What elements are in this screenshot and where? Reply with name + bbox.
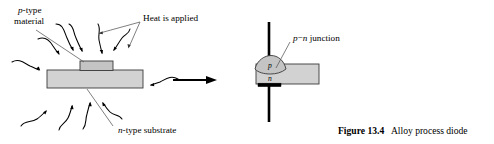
p-type-material-leader (36, 30, 84, 62)
figure-caption: Figure 13.4 Alloy process diode (338, 125, 468, 136)
left-diagram-group: p-type material Heat is applied n-type s… (12, 5, 199, 135)
heat-arrow-top-left-outer (38, 38, 59, 55)
n-type-substrate-leader (87, 89, 113, 126)
n-type-substrate-label: n-type substrate (118, 125, 176, 135)
caption-number: Figure 13.4 (338, 125, 384, 136)
n-type-substrate-block (47, 70, 143, 88)
heat-arrow-top-center-right (98, 24, 103, 54)
figure-13-4-alloy-process-diode: p-type material Heat is applied n-type s… (0, 0, 494, 144)
heat-leader-left (99, 22, 140, 34)
heat-arrow-bottom-left-outer (21, 110, 47, 126)
p-type-material-block (80, 61, 113, 71)
heat-arrow-bottom-center (83, 102, 92, 129)
caption-title: Alloy process diode (391, 125, 468, 136)
heat-arrow-top-left (56, 24, 74, 51)
heat-is-applied-label: Heat is applied (143, 13, 199, 23)
heat-arrow-top-right (113, 29, 130, 51)
heat-arrow-bottom-right (102, 102, 122, 119)
heat-leader-right (128, 22, 141, 48)
process-transition-arrow (173, 76, 217, 84)
bottom-ohmic-contact (258, 83, 281, 86)
p-type-material-label-line2: material (14, 16, 45, 26)
heat-arrow-right-side (150, 77, 178, 86)
pn-junction-label: p−n junction (292, 33, 340, 43)
p-region-label: p (267, 61, 272, 70)
figure-illustration: p-type material Heat is applied n-type s… (0, 0, 494, 144)
right-diagram-group: p n p−n junction (255, 22, 340, 122)
p-type-material-label-line1: p-type (17, 5, 41, 15)
heat-arrow-left-side (12, 61, 40, 71)
caption-text-run: Figure 13.4 Alloy process diode (338, 125, 468, 136)
heat-arrow-bottom-left (59, 105, 74, 130)
n-region-label: n (268, 74, 272, 83)
